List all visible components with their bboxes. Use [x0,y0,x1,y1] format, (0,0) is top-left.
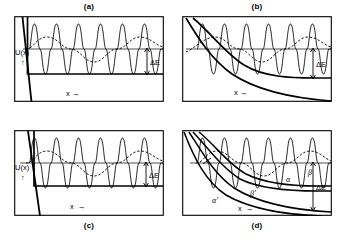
panel-c-y-axis-arrow: ↑ [21,173,25,182]
panel-d-x-axis-arrow: → [246,204,254,213]
panel-b-x-axis-arrow: → [240,88,248,97]
panel-b-x-axis-label: x [234,88,238,97]
panel-d-label-beta-prime: β′ [249,189,256,198]
panel-b-caption: (b) [237,2,277,11]
panel-c-delta-e-label: ΔE [149,171,159,180]
figure-container: (a) ΔE U(x) ↑ x → (b) [0,0,343,240]
panel-a: ΔE U(x) ↑ x → [14,16,164,102]
panel-d-x-axis-label: x [238,204,242,213]
panel-c-caption: (c) [69,221,109,230]
panel-b: ΔE x → [182,16,332,102]
panel-c-y-axis-label: U(x) [15,163,30,172]
panel-d-label-alpha-prime: α′ [212,196,218,205]
panel-c-x-axis-arrow: → [78,202,86,211]
panel-b-delta-e-label: ΔE [316,60,326,69]
panel-d-label-beta: β [307,168,312,177]
panel-c: ΔE U(x) ↑ x → [14,130,164,216]
panel-a-frame [15,17,164,102]
panel-a-y-axis-arrow: ↑ [21,58,25,67]
panel-a-caption: (a) [69,2,109,11]
panel-a-x-axis-label: x [66,89,70,98]
panel-d-delta-e-label: ΔE [316,183,326,192]
panel-a-x-axis-arrow: → [72,89,80,98]
panel-c-frame [15,131,164,216]
panel-d-caption: (d) [237,221,277,230]
panel-c-x-axis-label: x [70,202,74,211]
panel-a-delta-e-label: ΔE [150,58,160,67]
panel-d: ΔE α β β′ α′ x → [182,130,332,216]
panel-a-y-axis-label: U(x) [15,48,30,57]
